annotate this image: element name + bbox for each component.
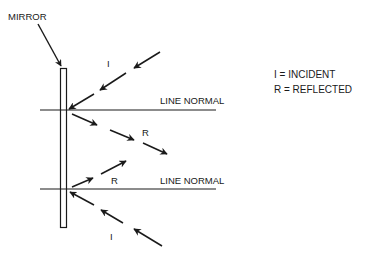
upper-incident-label: I [107, 58, 110, 69]
lower-incident-arrow-1 [70, 192, 94, 205]
lower-incident-arrow-2 [101, 210, 123, 223]
upper-reflected-label: R [142, 127, 149, 138]
lower-incident-arrow-3 [134, 229, 162, 246]
mirror [61, 69, 67, 228]
mirror-pointer-arrow [38, 24, 61, 66]
lower-incident-label: I [110, 231, 113, 242]
mirror-label: MIRROR [8, 11, 47, 22]
line-normal-bottom-label: LINE NORMAL [160, 175, 224, 186]
upper-incident-arrow-2 [100, 73, 126, 90]
lower-reflected-label: R [111, 175, 118, 186]
reflection-diagram: MIRROR LINE NORMAL LINE NORMAL I R R I I… [0, 0, 373, 261]
lower-reflected-arrow-1 [72, 178, 93, 187]
legend-reflected: R = REFLECTED [274, 84, 352, 95]
upper-incident-arrow-1 [134, 52, 160, 68]
legend-incident: I = INCIDENT [274, 69, 335, 80]
upper-reflected-arrow-1 [72, 114, 97, 125]
line-normal-top-label: LINE NORMAL [160, 95, 224, 106]
lower-reflected-arrow-2 [101, 161, 126, 174]
upper-reflected-arrow-2 [110, 130, 134, 140]
upper-incident-arrow-3 [69, 94, 94, 109]
upper-reflected-arrow-3 [143, 143, 167, 154]
